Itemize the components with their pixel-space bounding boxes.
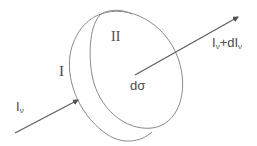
- incoming-intensity-arrow: [15, 100, 78, 133]
- label-intensity-out: Iν+dIν: [212, 36, 242, 51]
- intensity-in-subscript: ν: [20, 106, 24, 115]
- label-area-element: dσ: [130, 79, 145, 92]
- label-face-i: I: [59, 64, 64, 79]
- front-face-ellipse: [90, 11, 183, 128]
- diagram-canvas: I II Iν dσ Iν+dIν: [0, 0, 257, 146]
- intensity-out-increment: +dI: [220, 35, 238, 50]
- intensity-out-increment-subscript: ν: [238, 42, 242, 51]
- label-intensity-in: Iν: [16, 100, 24, 115]
- label-face-ii: II: [111, 30, 120, 44]
- cylinder-diagram: [0, 0, 257, 146]
